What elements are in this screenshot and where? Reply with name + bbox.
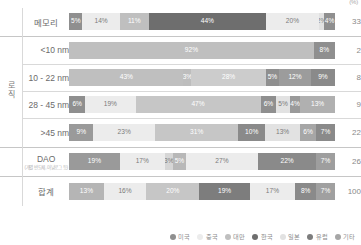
table-row: 10 - 22 nm43%3%28%5%12%9%8 [0, 64, 361, 91]
row-label-text: 10 - 22 nm [29, 73, 70, 83]
bar-segment[interactable]: 13% [265, 124, 300, 141]
row-label-lt10: <10 nm [23, 36, 70, 64]
bar-segment[interactable]: 3% [183, 69, 191, 86]
table-row: DAO(개별 반도체, 아날로그 등)19%17%3%5%27%22%7%26 [0, 147, 361, 176]
legend-color-dot-icon [335, 234, 341, 240]
bar-segment[interactable]: 5% [173, 153, 186, 170]
bar-segment[interactable]: 92% [69, 42, 313, 59]
row-label-sum: 합계 [23, 176, 70, 206]
stacked-bar-chart: 메모리5%14%11%44%20%2%4%33로직<10 nm92%8%210 … [0, 8, 361, 206]
bar-segment[interactable]: 5% [276, 96, 289, 113]
bar-segment[interactable]: 14% [82, 13, 119, 30]
bar-segment[interactable]: 43% [69, 69, 183, 86]
bar-segment[interactable]: 28% [191, 69, 265, 86]
row-total-n28_45: 9 [335, 91, 361, 118]
stacked-bar: 19%17%3%5%27%22%7% [69, 153, 335, 170]
bar-segment[interactable]: 10% [238, 124, 265, 141]
legend-label: 대만 [233, 232, 245, 241]
bar-segment[interactable]: 19% [69, 153, 119, 170]
bar-segment[interactable]: 22% [258, 153, 316, 170]
legend-item[interactable]: 대만 [225, 232, 246, 241]
bar-segment[interactable]: 13% [69, 183, 104, 200]
bar-segment[interactable]: 20% [266, 13, 319, 30]
bar-segment[interactable]: 5% [69, 13, 82, 30]
bar-segment[interactable]: 9% [311, 69, 335, 86]
bar-segment[interactable]: 4% [290, 96, 301, 113]
legend-item[interactable]: 미국 [170, 232, 191, 241]
bar-cell-gt45: 9%23%31%10%13%6%7% [69, 118, 335, 147]
bar-segment[interactable]: 31% [155, 124, 238, 141]
row-group-spacer [0, 8, 23, 36]
bar-segment[interactable]: 8% [314, 42, 335, 59]
legend-color-dot-icon [252, 234, 258, 240]
bar-segment[interactable]: 4% [324, 13, 335, 30]
legend-label: 중국 [206, 232, 218, 241]
table-row: 28 - 45 nm6%19%47%6%5%4%13%9 [0, 91, 361, 118]
legend-label: 한국 [261, 232, 273, 241]
table-row: 로직<10 nm92%8%2 [0, 36, 361, 64]
stacked-bar: 43%3%28%5%12%9% [69, 69, 335, 86]
stacked-bar: 13%16%20%19%17%8%7% [69, 183, 335, 200]
bar-cell-memory: 5%14%11%44%20%2%4% [69, 8, 335, 36]
stacked-bar: 9%23%31%10%13%6%7% [69, 124, 335, 141]
bar-cell-n10_22: 43%3%28%5%12%9% [69, 64, 335, 91]
row-label-n10_22: 10 - 22 nm [23, 64, 70, 91]
row-group-spacer [0, 176, 23, 206]
bar-segment[interactable]: 6% [300, 124, 316, 141]
bar-segment[interactable]: 44% [149, 13, 266, 30]
bar-segment[interactable]: 16% [104, 183, 147, 200]
bar-segment[interactable]: 7% [316, 124, 335, 141]
bar-segment[interactable]: 11% [120, 13, 149, 30]
bar-segment[interactable]: 6% [261, 96, 277, 113]
bar-segment[interactable]: 47% [136, 96, 261, 113]
row-label-n28_45: 28 - 45 nm [23, 91, 70, 118]
chart-legend: 미국중국대만한국일본유럽기타 [0, 232, 361, 241]
legend-color-dot-icon [197, 234, 203, 240]
bar-segment[interactable]: 7% [316, 153, 335, 170]
table-row: >45 nm9%23%31%10%13%6%7%22 [0, 118, 361, 147]
bar-segment[interactable]: 7% [316, 183, 335, 200]
bar-cell-lt10: 92%8% [69, 36, 335, 64]
row-label-subtext: (개별 반도체, 아날로그 등) [23, 164, 69, 170]
row-group-logic-label: 로직 [6, 81, 15, 99]
row-label-text: 메모리 [34, 18, 58, 28]
bar-segment[interactable]: 3% [165, 153, 173, 170]
row-total-memory: 33 [335, 8, 361, 36]
stacked-bar: 6%19%47%6%5%4%13% [69, 96, 335, 113]
stacked-bar: 5%14%11%44%20%2%4% [69, 13, 335, 30]
legend-item[interactable]: 일본 [280, 232, 301, 241]
row-label-gt45: >45 nm [23, 118, 70, 147]
bar-segment[interactable]: 5% [266, 69, 279, 86]
bar-segment[interactable]: 17% [250, 183, 295, 200]
bar-segment[interactable]: 8% [295, 183, 316, 200]
bar-segment[interactable]: 19% [199, 183, 249, 200]
row-label-text: <10 nm [41, 45, 70, 55]
row-total-lt10: 2 [335, 36, 361, 64]
bar-segment[interactable]: 19% [85, 96, 135, 113]
bar-segment[interactable]: 27% [186, 153, 258, 170]
legend-item[interactable]: 유럽 [307, 232, 328, 241]
table-row: 메모리5%14%11%44%20%2%4%33 [0, 8, 361, 36]
row-label-text: DAO [37, 154, 55, 164]
row-group-logic: 로직 [0, 36, 23, 147]
legend-item[interactable]: 기타 [335, 232, 356, 241]
bar-segment[interactable]: 12% [279, 69, 311, 86]
stacked-bar: 92%8% [69, 42, 335, 59]
bar-segment[interactable]: 13% [300, 96, 335, 113]
row-label-dao: DAO(개별 반도체, 아날로그 등) [23, 147, 70, 176]
table-row: 합계13%16%20%19%17%8%7%100 [0, 176, 361, 206]
bar-segment[interactable]: 9% [69, 124, 93, 141]
unit-label: (%) [349, 0, 358, 5]
chart-grid: 메모리5%14%11%44%20%2%4%33로직<10 nm92%8%210 … [0, 8, 361, 206]
legend-item[interactable]: 한국 [252, 232, 273, 241]
legend-label: 기타 [343, 232, 355, 241]
legend-item[interactable]: 중국 [197, 232, 218, 241]
bar-segment[interactable]: 20% [146, 183, 199, 200]
bar-segment[interactable]: 17% [120, 153, 165, 170]
bar-cell-n28_45: 6%19%47%6%5%4%13% [69, 91, 335, 118]
bar-segment[interactable]: 6% [69, 96, 85, 113]
bar-segment[interactable]: 23% [93, 124, 155, 141]
legend-color-dot-icon [225, 234, 231, 240]
row-label-text: 합계 [38, 187, 54, 197]
row-group-spacer [0, 147, 23, 176]
